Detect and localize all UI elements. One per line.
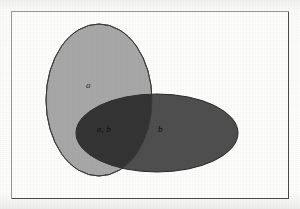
set-a-label: a — [86, 80, 91, 90]
intersection-label: a, b — [97, 124, 111, 134]
figure-page: a a, b b — [0, 0, 300, 209]
set-b-label: b — [158, 124, 163, 134]
venn-diagram-canvas — [11, 11, 289, 199]
